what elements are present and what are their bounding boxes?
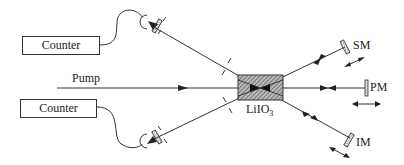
im-mirror — [329, 133, 354, 158]
counter-label: Counter — [42, 38, 81, 53]
counter-label: Counter — [39, 101, 78, 116]
sm-label: SM — [353, 38, 370, 53]
pm-label: PM — [370, 80, 387, 95]
fiber-cable-bottom — [97, 107, 142, 148]
counter-box-bottom: Counter — [20, 99, 97, 118]
im-label: IM — [356, 135, 371, 150]
optical-setup-diagram — [0, 0, 404, 165]
crystal-label: LiIO3 — [246, 102, 273, 118]
counter-box-top: Counter — [22, 36, 100, 55]
fiber-cable-top — [100, 10, 142, 45]
liio3-crystal — [238, 75, 283, 100]
pump-label: Pump — [72, 71, 100, 86]
